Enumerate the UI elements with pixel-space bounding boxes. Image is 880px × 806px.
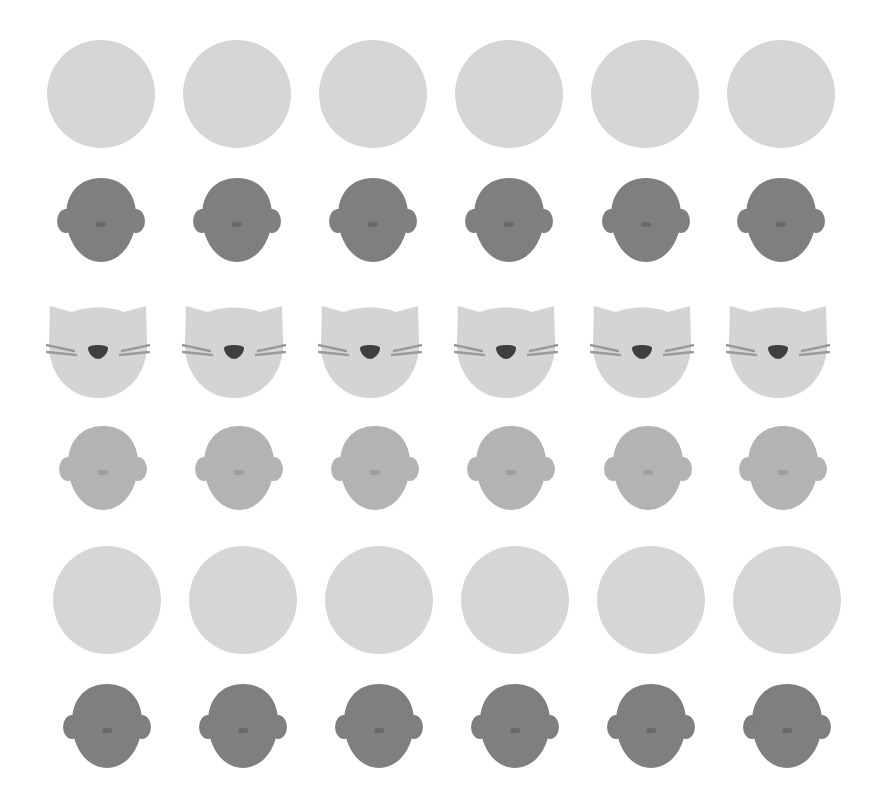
placeholder-circle-icon [726, 39, 836, 149]
avatar-r5-c4 [460, 545, 570, 655]
avatar-r5-c3 [324, 545, 434, 655]
avatar-r4-c1 [58, 423, 148, 513]
avatar-r3-c1 [46, 300, 150, 400]
avatar-r4-c4 [466, 423, 556, 513]
avatar-r2-c1 [56, 175, 146, 265]
cat-face-icon [318, 300, 422, 400]
placeholder-circle-icon [454, 39, 564, 149]
person-head-icon [192, 175, 282, 265]
avatar-r3-c2 [182, 300, 286, 400]
placeholder-circle-icon [732, 545, 842, 655]
avatar-r5-c5 [596, 545, 706, 655]
avatar-r3-c4 [454, 300, 558, 400]
person-head-icon [470, 681, 560, 771]
avatar-r2-c6 [736, 175, 826, 265]
avatar-r5-c6 [732, 545, 842, 655]
avatar-r2-c5 [601, 175, 691, 265]
avatar-r4-c5 [603, 423, 693, 513]
avatar-r1-c4 [454, 39, 564, 149]
placeholder-circle-icon [318, 39, 428, 149]
person-head-icon [464, 175, 554, 265]
avatar-r4-c3 [330, 423, 420, 513]
avatar-r3-c6 [726, 300, 830, 400]
avatar-r6-c2 [198, 681, 288, 771]
avatar-r3-c5 [590, 300, 694, 400]
person-head-icon [606, 681, 696, 771]
person-head-icon [58, 423, 148, 513]
avatar-r3-c3 [318, 300, 422, 400]
avatar-r6-c6 [742, 681, 832, 771]
person-head-icon [56, 175, 146, 265]
placeholder-circle-icon [182, 39, 292, 149]
cat-face-icon [454, 300, 558, 400]
avatar-r4-c6 [738, 423, 828, 513]
avatar-r2-c4 [464, 175, 554, 265]
person-head-icon [62, 681, 152, 771]
person-head-icon [601, 175, 691, 265]
avatar-r6-c4 [470, 681, 560, 771]
person-head-icon [328, 175, 418, 265]
avatar-r5-c1 [52, 545, 162, 655]
avatar-r1-c2 [182, 39, 292, 149]
cat-face-icon [590, 300, 694, 400]
avatar-r6-c5 [606, 681, 696, 771]
placeholder-circle-icon [324, 545, 434, 655]
placeholder-circle-icon [52, 545, 162, 655]
person-head-icon [194, 423, 284, 513]
person-head-icon [736, 175, 826, 265]
person-head-icon [330, 423, 420, 513]
cat-face-icon [726, 300, 830, 400]
cat-face-icon [46, 300, 150, 400]
avatar-r6-c1 [62, 681, 152, 771]
avatar-r6-c3 [334, 681, 424, 771]
person-head-icon [334, 681, 424, 771]
avatar-r5-c2 [188, 545, 298, 655]
person-head-icon [466, 423, 556, 513]
placeholder-circle-icon [460, 545, 570, 655]
avatar-r2-c3 [328, 175, 418, 265]
placeholder-circle-icon [188, 545, 298, 655]
avatar-r1-c5 [590, 39, 700, 149]
person-head-icon [742, 681, 832, 771]
person-head-icon [198, 681, 288, 771]
placeholder-circle-icon [46, 39, 156, 149]
person-head-icon [603, 423, 693, 513]
cat-face-icon [182, 300, 286, 400]
avatar-r1-c1 [46, 39, 156, 149]
avatar-r4-c2 [194, 423, 284, 513]
placeholder-circle-icon [596, 545, 706, 655]
placeholder-circle-icon [590, 39, 700, 149]
avatar-r1-c6 [726, 39, 836, 149]
avatar-r2-c2 [192, 175, 282, 265]
avatar-r1-c3 [318, 39, 428, 149]
person-head-icon [738, 423, 828, 513]
